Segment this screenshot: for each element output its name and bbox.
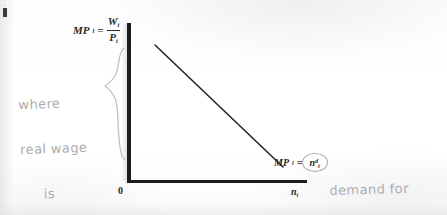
y-axis-label-mp: MP bbox=[73, 24, 90, 36]
demand-curve-line bbox=[155, 45, 283, 167]
curve-label-mp-sub: l bbox=[292, 160, 294, 166]
fraction-denominator: Pt bbox=[108, 32, 119, 45]
curve-label-equals: = bbox=[297, 157, 303, 168]
x-axis bbox=[127, 180, 307, 183]
handwritten-note-demand-for-labor: demand for labor bbox=[328, 151, 411, 215]
figure-canvas: MPl = Wt Pt MPl = ndt 0 nt where real wa… bbox=[0, 0, 447, 215]
handwritten-line-3: is bbox=[22, 185, 91, 203]
fraction-numerator: Wt bbox=[107, 16, 121, 29]
y-axis-label: MPl = Wt Pt bbox=[73, 16, 120, 44]
origin-label: 0 bbox=[118, 185, 123, 196]
handwritten-right-line-1: demand for bbox=[329, 181, 409, 198]
y-axis bbox=[127, 23, 131, 183]
labor-demand-circled: ndt bbox=[305, 156, 323, 170]
y-axis-label-equals: = bbox=[97, 24, 103, 36]
y-axis-label-mp-sub: l bbox=[93, 27, 95, 34]
handwritten-note-real-wage: where real wage is measured bbox=[17, 65, 93, 215]
curve-label: MPl = ndt bbox=[274, 156, 324, 170]
handwritten-line-2: real wage bbox=[20, 140, 89, 158]
handwritten-line-1: where bbox=[18, 95, 87, 113]
x-axis-label: nt bbox=[291, 186, 298, 198]
corner-stray-mark bbox=[3, 8, 7, 17]
scan-edge-left bbox=[0, 0, 14, 215]
pencil-brace-icon bbox=[100, 46, 130, 162]
x-axis-label-sub: t bbox=[297, 192, 299, 198]
real-wage-fraction: Wt Pt bbox=[107, 16, 121, 44]
labor-demand-sub: t bbox=[318, 163, 320, 169]
curve-label-mp: MP bbox=[274, 157, 289, 168]
